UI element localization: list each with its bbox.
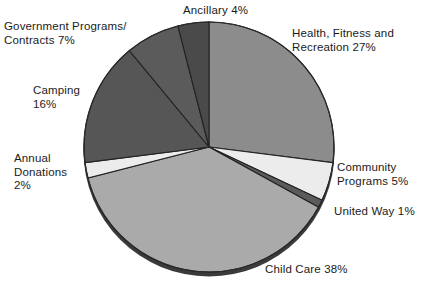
slice-label-child-care: Child Care 38%	[265, 263, 348, 277]
slice-label-health-fitness: Health, Fitness and Recreation 27%	[292, 27, 394, 54]
slice-label-community-programs: Community Programs 5%	[337, 161, 408, 188]
slice-label-ancillary: Ancillary 4%	[183, 4, 248, 18]
slice-label-camping: Camping 16%	[33, 84, 80, 111]
pie-chart-figure: Ancillary 4% Health, Fitness and Recreat…	[0, 0, 429, 288]
pie-slices-group	[84, 22, 334, 272]
slice-label-government-programs: Government Programs/ Contracts 7%	[4, 20, 127, 47]
slice-label-united-way: United Way 1%	[334, 205, 415, 219]
slice-label-annual-donations: Annual Donations 2%	[14, 152, 67, 193]
